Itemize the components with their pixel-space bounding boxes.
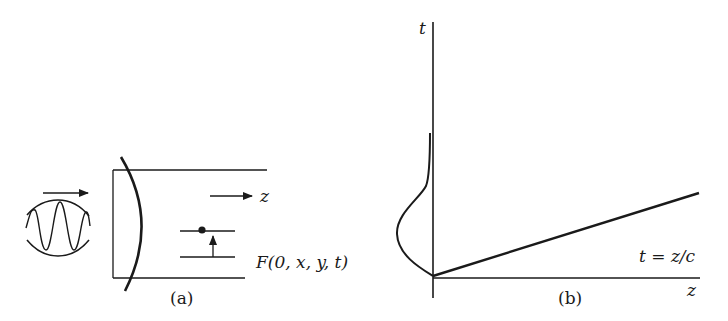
point-marker (198, 226, 205, 233)
pulse-envelope-curve (397, 133, 433, 276)
field-label: F(0, x, y, t) (255, 252, 348, 272)
panel-b: t z t = z/c (b) (397, 18, 700, 308)
lens-arc (121, 157, 142, 291)
panel-a: z F(0, x, y, t) (a) (26, 157, 348, 308)
caption-a: (a) (170, 288, 193, 308)
diagram-canvas: z F(0, x, y, t) (a) t z t = z/c (b) (0, 0, 728, 321)
z-axis-label: z (686, 280, 697, 300)
caption-b: (b) (558, 288, 582, 308)
light-line-label: t = z/c (639, 246, 696, 266)
z-label-a: z (259, 186, 270, 206)
t-axis-label: t (419, 18, 426, 38)
wave-packet-icon (26, 200, 90, 256)
